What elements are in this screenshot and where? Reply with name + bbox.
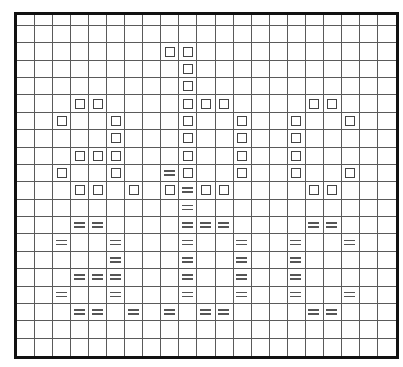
grid-cell (71, 43, 89, 60)
grid-cell (71, 252, 89, 269)
equals-symbol-icon (216, 217, 234, 234)
grid-cell (216, 200, 234, 217)
grid-cell (107, 321, 125, 338)
grid-cell (216, 61, 234, 78)
grid-cell (53, 339, 71, 356)
square-symbol-icon (288, 148, 306, 165)
grid-cell (143, 217, 161, 234)
grid-cell (306, 252, 324, 269)
grid-cell (270, 61, 288, 78)
grid-cell (179, 304, 197, 321)
square-symbol-icon (71, 95, 89, 112)
grid-cell (125, 339, 143, 356)
grid-cell (324, 15, 342, 26)
equals-symbol-icon (342, 287, 360, 304)
grid-cell (306, 26, 324, 43)
grid-cell (71, 165, 89, 182)
grid-cell (125, 61, 143, 78)
grid-cell (143, 165, 161, 182)
grid-cell (71, 287, 89, 304)
equals-symbol-icon (324, 304, 342, 321)
grid-cell (270, 287, 288, 304)
grid-cell (288, 43, 306, 60)
grid-cell (107, 95, 125, 112)
grid-cell (360, 95, 378, 112)
grid-cell (161, 217, 179, 234)
equals-symbol-icon (288, 252, 306, 269)
grid-cell (143, 339, 161, 356)
grid-cell (306, 200, 324, 217)
grid-cell (288, 321, 306, 338)
equals-symbol-icon (288, 269, 306, 286)
grid-cell (53, 26, 71, 43)
grid-cell (53, 130, 71, 147)
grid-cell (17, 182, 35, 199)
grid-cell (125, 130, 143, 147)
grid-cell (324, 234, 342, 251)
grid-cell (35, 339, 53, 356)
grid-cell (324, 43, 342, 60)
equals-symbol-icon (179, 217, 197, 234)
grid-cell (17, 217, 35, 234)
square-symbol-icon (125, 182, 143, 199)
grid-cell (252, 200, 270, 217)
grid-cell (35, 269, 53, 286)
grid-cell (17, 321, 35, 338)
equals-symbol-icon (234, 252, 252, 269)
grid-cell (161, 61, 179, 78)
grid-cell (107, 15, 125, 26)
equals-symbol-icon (306, 217, 324, 234)
grid-cell (216, 15, 234, 26)
grid-cell (216, 234, 234, 251)
grid-cell (35, 182, 53, 199)
grid-cell (107, 200, 125, 217)
grid-cell (71, 78, 89, 95)
grid-cell (89, 130, 107, 147)
grid-cell (89, 252, 107, 269)
grid-cell (378, 200, 396, 217)
grid-cell (288, 200, 306, 217)
grid-cell (216, 43, 234, 60)
grid-cell (35, 304, 53, 321)
grid-cell (270, 43, 288, 60)
grid-cell (89, 287, 107, 304)
grid-cell (53, 321, 71, 338)
grid-cell (143, 15, 161, 26)
grid-cell (324, 26, 342, 43)
grid-cell (161, 269, 179, 286)
grid-cell (270, 304, 288, 321)
grid-cell (360, 148, 378, 165)
grid-cell (378, 182, 396, 199)
grid-cell (288, 61, 306, 78)
grid-cell (288, 15, 306, 26)
grid-cell (270, 182, 288, 199)
grid-cell (35, 252, 53, 269)
grid-cell (360, 287, 378, 304)
grid-cell (342, 200, 360, 217)
square-symbol-icon (342, 165, 360, 182)
grid-cell (143, 200, 161, 217)
grid-cell (378, 113, 396, 130)
grid-cell (53, 252, 71, 269)
grid-cell (35, 113, 53, 130)
grid-cell (89, 321, 107, 338)
square-symbol-icon (179, 113, 197, 130)
grid-cell (89, 26, 107, 43)
grid-cell (270, 339, 288, 356)
equals-symbol-icon (71, 217, 89, 234)
equals-symbol-icon (197, 304, 215, 321)
grid-cell (234, 26, 252, 43)
grid-cell (252, 217, 270, 234)
grid-cell (378, 339, 396, 356)
square-symbol-icon (342, 113, 360, 130)
grid-cell (252, 339, 270, 356)
grid-cell (342, 217, 360, 234)
grid-cell (342, 43, 360, 60)
grid-cell (324, 200, 342, 217)
grid-cell (252, 287, 270, 304)
grid-cell (360, 165, 378, 182)
grid-cell (143, 321, 161, 338)
equals-symbol-icon (216, 304, 234, 321)
grid-cell (53, 15, 71, 26)
grid-cell (324, 287, 342, 304)
